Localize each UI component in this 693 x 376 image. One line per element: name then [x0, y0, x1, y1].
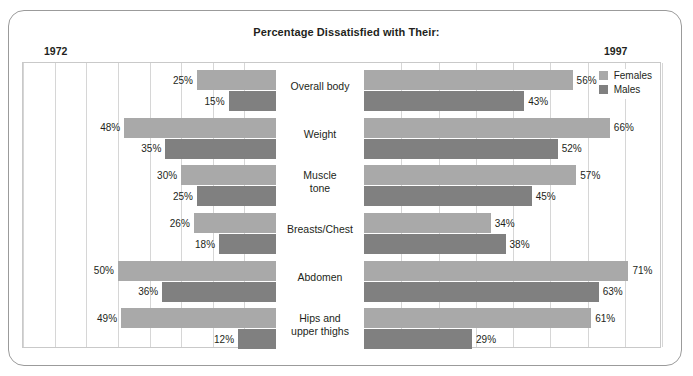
bar-value-1972-males: 15%	[201, 96, 229, 107]
legend-item-males: Males	[599, 84, 652, 95]
panel-1997-row: 34%38%	[364, 206, 660, 254]
bar-value-1972-males: 25%	[169, 191, 197, 202]
plot-area: 25%15%Overall body56%43%48%35%Weight66%5…	[22, 62, 661, 348]
category-label-text: Breasts/Chest	[287, 223, 353, 236]
bar-1972-females[interactable]	[194, 213, 276, 233]
chart-row: 25%15%Overall body56%43%	[23, 63, 660, 111]
bar-1997-females[interactable]	[364, 261, 628, 281]
bar-1997-males[interactable]	[364, 234, 506, 254]
bar-group-1972-males: 35%	[137, 139, 276, 159]
category-label-text: Hips andupper thighs	[291, 312, 349, 338]
bar-1972-females[interactable]	[121, 308, 276, 328]
bar-group-1972-males: 18%	[191, 234, 276, 254]
bar-group-1997-females: 34%	[364, 213, 519, 233]
page-title: Percentage Dissatisfied with Their:	[0, 26, 693, 38]
category-label: Overall body	[276, 63, 364, 111]
bar-1997-males[interactable]	[364, 282, 599, 302]
bar-1997-males[interactable]	[364, 91, 524, 111]
chart-row: 26%18%Breasts/Chest34%38%	[23, 206, 660, 254]
panel-1972-row: 50%36%	[23, 254, 276, 302]
bar-value-1997-females: 34%	[491, 218, 519, 229]
bar-group-1997-males: 38%	[364, 234, 534, 254]
category-label-text: Muscletone	[303, 169, 336, 195]
bar-value-1997-females: 66%	[610, 122, 638, 133]
bar-group-1997-males: 63%	[364, 282, 627, 302]
bar-value-1997-females: 61%	[591, 313, 619, 324]
chart-row: 50%36%Abdomen71%63%	[23, 254, 660, 302]
legend-swatch-females-icon	[599, 71, 608, 80]
panel-1972-row: 48%35%	[23, 111, 276, 159]
bar-1972-females[interactable]	[181, 165, 276, 185]
bar-group-1997-males: 43%	[364, 91, 552, 111]
bar-1997-females[interactable]	[364, 70, 573, 90]
bar-value-1972-females: 26%	[166, 218, 194, 229]
bar-value-1972-females: 25%	[169, 75, 197, 86]
legend-swatch-males-icon	[599, 85, 608, 94]
bar-group-1972-females: 30%	[153, 165, 276, 185]
bar-group-1972-females: 25%	[169, 70, 276, 90]
bar-group-1972-males: 36%	[134, 282, 276, 302]
category-label: Weight	[276, 111, 364, 159]
bar-group-1997-males: 29%	[364, 329, 500, 349]
panel-1997-row: 57%45%	[364, 158, 660, 206]
bar-value-1997-males: 38%	[506, 239, 534, 250]
bar-value-1972-males: 18%	[191, 239, 219, 250]
bar-1972-males[interactable]	[165, 139, 276, 159]
bar-value-1997-males: 52%	[558, 143, 586, 154]
bar-1972-males[interactable]	[238, 329, 276, 349]
bar-1997-males[interactable]	[364, 186, 532, 206]
category-label-text: Overall body	[291, 80, 350, 93]
bar-group-1997-females: 66%	[364, 118, 638, 138]
bar-1972-females[interactable]	[124, 118, 276, 138]
bar-group-1997-females: 56%	[364, 70, 601, 90]
year-label-left: 1972	[44, 45, 67, 57]
panel-1972-row: 26%18%	[23, 206, 276, 254]
bar-1972-females[interactable]	[197, 70, 276, 90]
bar-value-1997-males: 63%	[599, 286, 627, 297]
category-label: Hips andupper thighs	[276, 301, 364, 349]
bar-value-1997-females: 71%	[628, 265, 656, 276]
bar-group-1972-females: 48%	[96, 118, 276, 138]
bar-value-1997-males: 45%	[532, 191, 560, 202]
bar-value-1972-males: 36%	[134, 286, 162, 297]
bar-group-1972-males: 15%	[201, 91, 276, 111]
bar-1997-females[interactable]	[364, 165, 576, 185]
bar-value-1972-males: 35%	[137, 143, 165, 154]
category-label: Muscletone	[276, 158, 364, 206]
bar-1972-males[interactable]	[229, 91, 276, 111]
legend-label-females: Females	[614, 70, 652, 81]
category-label-text: Abdomen	[298, 271, 343, 284]
bar-1972-males[interactable]	[197, 186, 276, 206]
category-label-text: Weight	[304, 128, 337, 141]
panel-1972-row: 49%12%	[23, 301, 276, 349]
year-right-label: 1997	[604, 45, 627, 57]
bar-1997-females[interactable]	[364, 118, 610, 138]
panel-1972-row: 30%25%	[23, 158, 276, 206]
chart-row: 48%35%Weight66%52%	[23, 111, 660, 159]
bar-1997-males[interactable]	[364, 329, 472, 349]
bar-1997-males[interactable]	[364, 139, 558, 159]
category-label: Abdomen	[276, 254, 364, 302]
chart-rows: 25%15%Overall body56%43%48%35%Weight66%5…	[23, 63, 660, 347]
bar-group-1997-males: 52%	[364, 139, 586, 159]
chart-row: 49%12%Hips andupper thighs61%29%	[23, 301, 660, 349]
panel-1972-row: 25%15%	[23, 63, 276, 111]
legend-item-females: Females	[599, 70, 652, 81]
bar-group-1997-females: 61%	[364, 308, 619, 328]
bar-value-1997-males: 43%	[524, 96, 552, 107]
legend: Females Males	[597, 69, 654, 99]
bar-group-1997-females: 71%	[364, 261, 656, 281]
bar-1972-females[interactable]	[118, 261, 276, 281]
bar-group-1997-males: 45%	[364, 186, 560, 206]
bar-value-1997-males: 29%	[472, 334, 500, 345]
bar-group-1972-males: 25%	[169, 186, 276, 206]
bar-value-1972-females: 30%	[153, 170, 181, 181]
panel-1997-row: 61%29%	[364, 301, 660, 349]
bar-group-1997-females: 57%	[364, 165, 604, 185]
legend-label-males: Males	[614, 84, 641, 95]
bar-1972-males[interactable]	[219, 234, 276, 254]
bar-1972-males[interactable]	[162, 282, 276, 302]
bar-group-1972-females: 50%	[90, 261, 276, 281]
bar-1997-females[interactable]	[364, 213, 491, 233]
bar-1997-females[interactable]	[364, 308, 591, 328]
